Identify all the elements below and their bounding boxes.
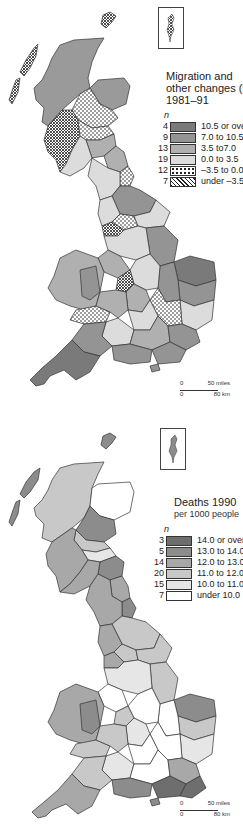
deaths-choropleth-map	[0, 416, 243, 832]
legend-n-label: n	[164, 524, 243, 535]
legend-title: Deaths 1990	[174, 496, 243, 508]
legend-count: 19	[154, 154, 170, 165]
legend-count: 20	[154, 568, 166, 579]
legend-row: 133.5 to7.0	[154, 143, 243, 154]
legend-label: 13.0 to 14.0	[192, 546, 243, 557]
legend-table: 314.0 or over 513.0 to 14.0 1412.0 to 13…	[154, 535, 243, 601]
legend-row: 7under 10.0	[154, 590, 243, 601]
shetland-islands-icon	[159, 8, 183, 48]
legend-row: 2011.0 to 12.0	[154, 568, 243, 579]
migration-legend: Migration and other changes (%) 1981–91 …	[154, 70, 243, 187]
scale-bar: 0 50 miles 0 80 km	[180, 380, 230, 397]
legend-label: –3.5 to 0.0	[196, 165, 243, 176]
legend-label: 10.0 to 11.0	[192, 579, 243, 590]
legend-swatch	[166, 591, 192, 601]
legend-label: 11.0 to 12.0	[192, 568, 243, 579]
scale-km-start: 0	[180, 391, 183, 397]
scale-km-end: 80 km	[214, 811, 230, 817]
deaths-map-panel: Deaths 1990 per 1000 people n 314.0 or o…	[0, 416, 243, 832]
shetland-inset	[158, 7, 184, 49]
migration-choropleth-map	[0, 0, 243, 416]
legend-title: Migration and other changes (%)	[166, 70, 243, 94]
legend-row: 190.0 to 3.5	[154, 154, 243, 165]
legend-label: 12.0 to 13.0	[192, 557, 243, 568]
scale-line	[180, 386, 218, 391]
legend-row: 513.0 to 14.0	[154, 546, 243, 557]
legend-swatch	[170, 133, 196, 143]
legend-row: 97.0 to 10.5	[154, 132, 243, 143]
legend-swatch	[166, 558, 192, 568]
legend-swatch	[170, 122, 196, 132]
legend-count: 14	[154, 557, 166, 568]
legend-row: 1412.0 to 13.0	[154, 557, 243, 568]
legend-label: 10.5 or over	[196, 121, 243, 132]
legend-count: 7	[154, 176, 170, 187]
legend-count: 12	[154, 165, 170, 176]
migration-map-panel: Migration and other changes (%) 1981–91 …	[0, 0, 243, 416]
legend-label: 14.0 or over	[192, 535, 243, 546]
legend-subtitle: 1981–91	[166, 94, 243, 106]
legend-label: 7.0 to 10.5	[196, 132, 243, 143]
legend-swatch	[170, 144, 196, 154]
legend-label: 0.0 to 3.5	[196, 154, 243, 165]
scale-bar: 0 50 miles 0 80 km	[180, 800, 230, 817]
deaths-legend: Deaths 1990 per 1000 people n 314.0 or o…	[154, 496, 243, 601]
legend-swatch	[170, 166, 196, 176]
legend-swatch	[170, 177, 196, 187]
legend-table: 410.5 or over 97.0 to 10.5 133.5 to7.0 1…	[154, 121, 243, 187]
legend-count: 7	[154, 590, 166, 601]
legend-count: 9	[154, 132, 170, 143]
legend-label: under –3.5	[196, 176, 243, 187]
legend-count: 13	[154, 143, 170, 154]
shetland-inset	[160, 428, 186, 470]
legend-swatch	[170, 155, 196, 165]
legend-subtitle: per 1000 people	[174, 509, 243, 520]
scale-line	[180, 806, 218, 811]
legend-swatch	[166, 547, 192, 557]
legend-row: 7under –3.5	[154, 176, 243, 187]
legend-swatch	[166, 569, 192, 579]
legend-n-label: n	[164, 110, 243, 121]
scale-km-start: 0	[180, 811, 183, 817]
legend-label: under 10.0	[192, 590, 243, 601]
shetland-islands-icon	[161, 429, 185, 469]
legend-row: 410.5 or over	[154, 121, 243, 132]
scale-km-end: 80 km	[214, 391, 230, 397]
legend-row: 1510.0 to 11.0	[154, 579, 243, 590]
legend-count: 4	[154, 121, 170, 132]
legend-swatch	[166, 580, 192, 590]
legend-swatch	[166, 536, 192, 546]
legend-label: 3.5 to7.0	[196, 143, 243, 154]
legend-row: 314.0 or over	[154, 535, 243, 546]
legend-count: 5	[154, 546, 166, 557]
legend-count: 15	[154, 579, 166, 590]
legend-count: 3	[154, 535, 166, 546]
legend-row: 12–3.5 to 0.0	[154, 165, 243, 176]
